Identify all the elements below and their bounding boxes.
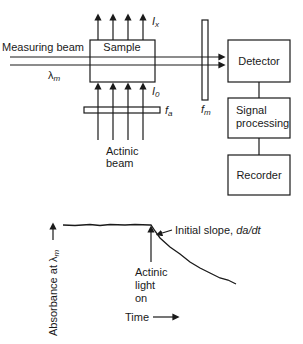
signal-processing-label-1: Signal (236, 104, 267, 116)
x-axis-label: Time (125, 311, 149, 323)
fa-filter (84, 107, 160, 113)
signal-processing-label-2: processing (236, 117, 289, 129)
recorder-label: Recorder (236, 169, 282, 181)
sample-label: Sample (103, 41, 140, 53)
actinic-light-label-2: light (135, 279, 155, 291)
detector-label: Detector (238, 55, 280, 67)
fa-label: fa (165, 104, 173, 118)
slope-annotation: Initial slope, da/dt (175, 224, 262, 236)
slope-pointer (159, 230, 172, 234)
svg-text:Absorbance at λm: Absorbance at λm (47, 250, 61, 337)
actinic-light-label-3: on (135, 292, 147, 304)
lambda-m-label: λm (48, 69, 61, 83)
diagram-stage: Measuring beam λm Sample Ix I0 fa Actini… (0, 0, 303, 344)
i0-label: I0 (152, 85, 160, 99)
fm-filter (202, 20, 208, 100)
actinic-light-label-1: Actinic (135, 266, 168, 278)
fm-label: fm (201, 103, 211, 117)
y-axis-label: Absorbance at λm (47, 250, 61, 337)
apparatus-diagram: Measuring beam λm Sample Ix I0 fa Actini… (0, 0, 303, 344)
ix-label: Ix (152, 15, 160, 29)
measuring-beam-label: Measuring beam (2, 41, 84, 53)
actinic-beam-label-2: beam (106, 157, 134, 169)
actinic-beam-label-1: Actinic (106, 145, 139, 157)
